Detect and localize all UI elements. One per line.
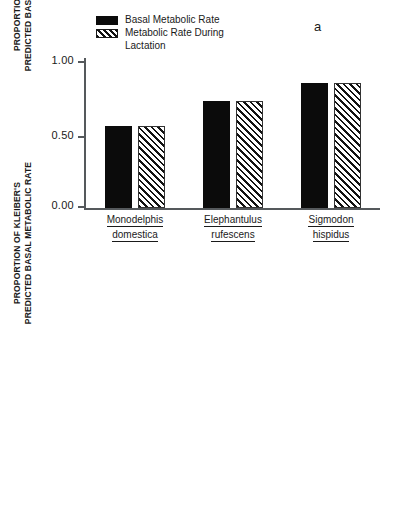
category-genus: Sigmodon (308, 214, 353, 227)
y-tick-label-100-panel-a: 1.00 (51, 54, 74, 66)
plot-area-panel-a: 1.00 0.50 0.00 (84, 58, 380, 208)
category-species: hispidus (313, 229, 350, 242)
category-genus: Monodelphis (107, 214, 164, 227)
bar-basal-monodelphis-panel-a (105, 126, 132, 208)
panel-letter-a: a (314, 20, 321, 33)
panel-b: PROPORTION OF KLEIBER'S PREDICTED BASAL … (0, 253, 396, 505)
legend-label-lactation-line1: Metabolic Rate During (125, 27, 224, 39)
y-tick-050-panel-a: 0.50 (78, 136, 84, 138)
y-tick-label-050-panel-a: 0.50 (51, 129, 74, 141)
bar-lactation-elephantulus-panel-a (236, 101, 263, 208)
category-monodelphis-panel-a: Monodelphis domestica (86, 214, 184, 242)
solid-black-swatch-icon (96, 16, 118, 25)
y-axis-title-line2: PREDICTED BASAL METABOLIC RATE (23, 162, 33, 324)
legend-label-lactation-line2: Lactation (125, 40, 224, 52)
bar-group-elephantulus-panel-a (184, 58, 282, 208)
bar-groups-panel-a (86, 58, 380, 208)
category-species: rufescens (211, 229, 254, 242)
panel-a: PROPORTION OF KLEIBER'S PREDICTED BASAL … (0, 0, 396, 252)
bar-lactation-sigmodon-panel-a (334, 83, 361, 208)
y-tick-100-panel-a: 1.00 (78, 61, 84, 63)
legend-entry-basal: Basal Metabolic Rate (96, 14, 224, 26)
y-axis-title-panel-b: PROPORTION OF KLEIBER'S PREDICTED BASAL … (2, 155, 42, 331)
category-elephantulus-panel-a: Elephantulus rufescens (184, 214, 282, 242)
x-axis-categories-panel-a: Monodelphis domestica Elephantulus rufes… (86, 214, 380, 242)
x-axis-line-panel-a (84, 208, 380, 210)
category-species: domestica (112, 229, 158, 242)
legend-label-basal: Basal Metabolic Rate (125, 14, 220, 26)
bar-basal-sigmodon-panel-a (301, 83, 328, 208)
category-sigmodon-panel-a: Sigmodon hispidus (282, 214, 380, 242)
y-axis-title-line1: PROPORTION OF KLEIBER'S (12, 182, 22, 304)
y-tick-label-000-panel-a: 0.00 (51, 199, 74, 211)
y-axis-title-line1: PROPORTION OF KLEIBER'S (12, 0, 22, 51)
bar-lactation-monodelphis-panel-a (138, 126, 165, 208)
y-axis-title-panel-a: PROPORTION OF KLEIBER'S PREDICTED BASAL … (2, 0, 42, 78)
bar-basal-elephantulus-panel-a (203, 101, 230, 208)
figure-container: PROPORTION OF KLEIBER'S PREDICTED BASAL … (0, 0, 396, 505)
bar-group-sigmodon-panel-a (282, 58, 380, 208)
y-tick-000-panel-a: 0.00 (78, 206, 84, 208)
diagonal-hatch-swatch-icon (96, 29, 118, 38)
legend-entry-lactation: Metabolic Rate During (96, 27, 224, 39)
y-axis-title-line2: PREDICTED BASAL METABOLIC RATE (23, 0, 33, 71)
legend-panel-a: Basal Metabolic Rate Metabolic Rate Duri… (96, 14, 224, 52)
category-genus: Elephantulus (204, 214, 262, 227)
bar-group-monodelphis-panel-a (86, 58, 184, 208)
